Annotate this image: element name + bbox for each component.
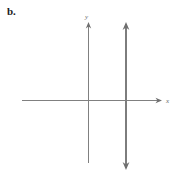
x-axis-label: x [165, 97, 170, 105]
figure-container: b. y x [0, 0, 175, 177]
coordinate-plane-graphic: y x [0, 0, 175, 177]
y-axis-label: y [84, 13, 89, 21]
